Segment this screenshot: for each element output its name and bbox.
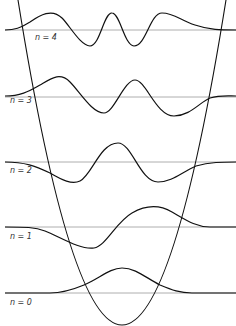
wavefunction-n2 <box>5 143 236 182</box>
level-label-n2: n = 2 <box>10 166 32 175</box>
wavefunction-n0 <box>5 268 236 293</box>
wavefunction-n1 <box>5 207 236 248</box>
wavefunction-n3 <box>5 77 236 116</box>
energy-baselines <box>5 30 236 293</box>
potential-parabola <box>18 0 226 325</box>
level-label-n4: n = 4 <box>35 33 57 42</box>
oscillator-diagram <box>0 0 236 326</box>
level-label-n3: n = 3 <box>10 96 32 105</box>
wavefunctions <box>5 13 236 293</box>
level-label-n1: n = 1 <box>10 232 32 241</box>
level-label-n0: n = 0 <box>10 298 32 307</box>
